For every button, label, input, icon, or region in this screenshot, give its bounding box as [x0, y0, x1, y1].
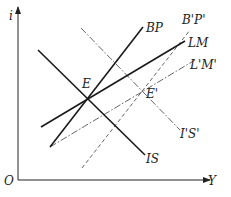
label-IS: IS [145, 152, 159, 166]
islm-diagram: i O Y BP B'P' LM L'M' I'S' IS E E' [0, 0, 231, 197]
curve-BP [50, 27, 143, 147]
origin-label: O [4, 174, 14, 188]
label-point-Ep: E' [145, 87, 158, 101]
label-IpSp: I'S' [179, 127, 200, 141]
label-LpMp: L'M' [189, 58, 217, 72]
curve-LM [41, 41, 185, 127]
y-axis-label: i [9, 9, 13, 23]
curve-IS [38, 50, 145, 155]
curve-BpPp [82, 30, 190, 168]
label-point-E: E [81, 77, 91, 91]
label-BpPp: B'P' [181, 13, 206, 27]
label-BP: BP [145, 21, 164, 35]
label-LM: LM [187, 36, 209, 50]
x-axis-label: Y [208, 174, 217, 188]
